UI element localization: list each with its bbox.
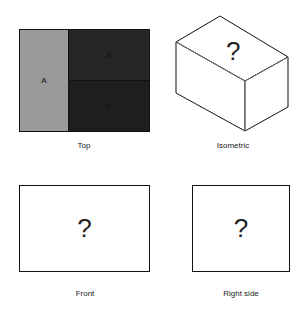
front-view-label: Front bbox=[35, 289, 135, 298]
isometric-view-label: Isometric bbox=[183, 141, 283, 150]
front-question-mark: ? bbox=[77, 213, 91, 244]
isometric-box bbox=[0, 0, 300, 160]
front-view: ? bbox=[19, 185, 150, 272]
right-side-question-mark: ? bbox=[234, 213, 248, 244]
right-side-view: ? bbox=[192, 185, 290, 272]
isometric-question-mark: ? bbox=[226, 36, 240, 67]
right-side-view-label: Right side bbox=[191, 289, 291, 298]
